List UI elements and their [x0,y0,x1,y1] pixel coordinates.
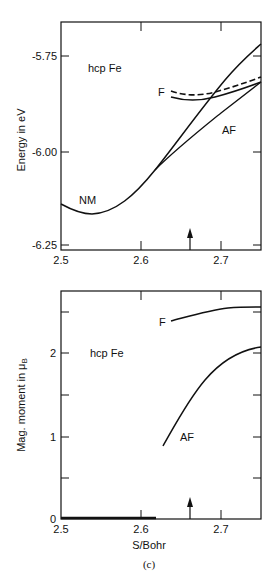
moment-y-axis-label: Mag. moment in μB [15,358,29,452]
figure: -5.75 -6.00 -6.25 2.5 2.6 2.7 Energy in … [0,0,272,584]
moment-xtick-label: 2.7 [213,523,228,535]
moment-panel: 2 1 0 2.5 2.6 2.7 S/Bohr Mag. moment in … [15,291,261,551]
f-curve-label: F [158,86,165,98]
energy-xtick-label: 2.5 [53,254,68,266]
af-moment-label: AF [180,431,194,443]
energy-panel: -5.75 -6.00 -6.25 2.5 2.6 2.7 Energy in … [15,22,261,266]
energy-ytick-label: -6.25 [32,239,57,251]
energy-y-ticks [61,56,261,245]
moment-xtick-label: 2.6 [133,523,148,535]
figure-caption: (c) [143,558,156,571]
energy-plot-frame [61,22,261,250]
af-curve-label: AF [222,124,236,136]
af-energy-curve [155,82,261,170]
moment-xtick-label: 2.5 [53,523,68,535]
arrow-marker-icon [187,228,193,250]
energy-ytick-label: -6.00 [32,146,57,158]
nm-curve-label: NM [79,194,96,206]
f-moment-curve [171,307,261,321]
f-moment-label: F [159,316,166,328]
energy-panel-title: hcp Fe [88,62,122,74]
moment-x-ticks [141,291,221,519]
energy-xtick-label: 2.7 [213,254,228,266]
x-axis-label: S/Bohr [132,539,166,551]
energy-xtick-label: 2.6 [133,254,148,266]
moment-y-ticks [61,312,261,478]
moment-ytick-label: 1 [50,431,56,443]
moment-ytick-label: 2 [50,347,56,359]
af-moment-curve [163,347,261,446]
energy-ytick-label: -5.75 [32,50,57,62]
moment-panel-title: hcp Fe [90,347,124,359]
arrow-marker-icon [187,497,193,519]
energy-y-axis-label: Energy in eV [15,108,27,172]
